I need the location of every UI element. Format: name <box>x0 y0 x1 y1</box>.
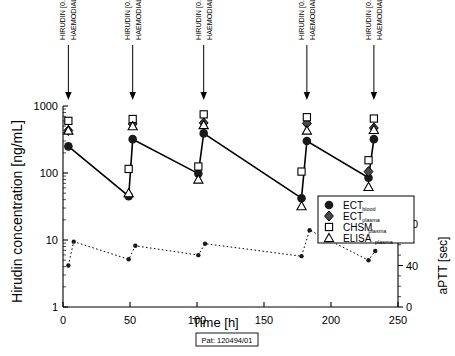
data-point-open-triangle <box>297 202 306 210</box>
annotation-dose-label: HIRUDIN [0.1 mg/kg] <box>123 0 132 40</box>
data-point-small-filled-circle <box>72 239 76 243</box>
data-point-filled-circle <box>128 135 137 144</box>
legend: ECTbloodECTplasmaCHSMplasmaELISAplasma <box>318 196 414 245</box>
series-chsm-plasma <box>65 111 378 175</box>
patient-label-text: Pat: 120494/01 <box>202 336 253 345</box>
data-point-open-square <box>303 114 310 121</box>
annotation-dose-label: HIRUDIN [0.1 mg/kg] <box>364 0 373 40</box>
legend-marker-open-square <box>325 223 332 230</box>
annotation-procedure-label: HAEMODIALYSIS <box>69 0 78 40</box>
y2-axis-label: aPTT [sec] <box>436 237 450 295</box>
annotation-arrow-head <box>371 92 377 100</box>
y-axis-tick-label: 100 <box>40 167 58 179</box>
y2-axis-tick-label: 40 <box>406 260 418 272</box>
data-point-small-filled-circle <box>307 228 311 232</box>
annotation-arrow-head <box>129 92 135 100</box>
legend-label-subscript: plasma <box>369 228 388 234</box>
y-axis-label: Hirudin concentration [ng/mL] <box>9 120 25 303</box>
series-ect-blood <box>64 129 378 202</box>
data-point-filled-circle <box>64 142 73 151</box>
series-ect-plasma <box>64 118 378 177</box>
annotation-arrow-head <box>304 92 310 100</box>
data-point-filled-circle <box>303 137 312 146</box>
data-point-open-triangle <box>302 126 311 134</box>
x-axis-tick-label: 200 <box>322 314 340 326</box>
data-point-small-filled-circle <box>299 254 303 258</box>
annotation-procedure-label: HAEMODIALYSIS <box>308 0 317 40</box>
annotation-arrow-head <box>201 92 207 100</box>
data-point-small-filled-circle <box>373 249 377 253</box>
data-point-open-square <box>298 168 305 175</box>
patient-label: Pat: 120494/01 <box>196 333 258 346</box>
y-axis-tick-label: 1000 <box>34 100 58 112</box>
y2-axis-tick-label: 0 <box>406 301 412 313</box>
data-point-open-square <box>65 117 72 124</box>
annotation-dose-label: HIRUDIN [0.11 mg/kg] <box>297 0 306 40</box>
data-point-filled-circle <box>370 135 379 144</box>
legend-label-subscript: blood <box>362 206 375 212</box>
x-axis-tick-label: 0 <box>60 314 66 326</box>
annotation-arrow-head <box>65 92 71 100</box>
data-point-small-filled-circle <box>66 263 70 267</box>
hirudin-concentration-chart: 050100150200250Time [h]1101001000Hirudin… <box>0 0 455 356</box>
x-axis-tick-label: 50 <box>124 314 136 326</box>
legend-label: ELISA <box>343 233 372 244</box>
annotation-dose-label: HIRUDIN [0.1 mg/kg] <box>58 0 67 40</box>
annotation-procedure-label: HAEMODIALYSIS <box>375 0 384 40</box>
data-point-open-square <box>365 157 372 164</box>
data-point-small-filled-circle <box>203 242 207 246</box>
annotations-group: HIRUDIN [0.1 mg/kg]HAEMODIALYSISHIRUDIN … <box>58 0 384 100</box>
data-point-filled-circle <box>199 129 208 138</box>
y-axis-tick-label: 1 <box>52 301 58 313</box>
data-series-group <box>64 111 379 268</box>
series-line <box>68 133 374 198</box>
data-point-open-triangle <box>364 182 373 190</box>
data-point-small-filled-circle <box>126 257 130 261</box>
legend-label: ECT <box>343 200 363 211</box>
y-axis-tick-label: 10 <box>46 234 58 246</box>
data-point-open-square <box>200 111 207 118</box>
legend-label-subscript: plasma <box>375 239 394 245</box>
x-axis-label: Time [h] <box>192 315 238 330</box>
data-point-small-filled-circle <box>133 244 137 248</box>
data-point-open-square <box>370 115 377 122</box>
x-axis-tick-label: 250 <box>389 314 407 326</box>
annotation-dose-label: HIRUDIN [0.11 mg/kg] <box>194 0 203 40</box>
data-point-small-filled-circle <box>366 258 370 262</box>
x-axis-tick-label: 150 <box>255 314 273 326</box>
annotation-procedure-label: HAEMODIALYSIS <box>134 0 143 40</box>
annotation-procedure-label: HAEMODIALYSIS <box>205 0 214 40</box>
legend-label: ECT <box>343 211 363 222</box>
legend-marker-filled-circle <box>325 201 334 210</box>
data-point-open-square <box>195 163 202 170</box>
data-point-open-square <box>125 165 132 172</box>
figure-root: 050100150200250Time [h]1101001000Hirudin… <box>0 0 455 356</box>
data-point-small-filled-circle <box>196 253 200 257</box>
